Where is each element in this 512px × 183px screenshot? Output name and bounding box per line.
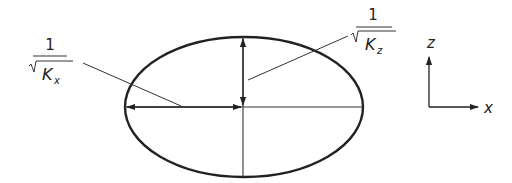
kz-leader-line [248,36,348,80]
ellipse-diagram: 1 K x 1 K z z x [0,0,512,183]
kz-symbol: K [365,35,377,54]
coordinate-axes: z x [426,34,493,117]
kz-subscript: z [376,45,383,56]
kx-leader-line [83,63,181,106]
kz-label: 1 K z [351,6,396,56]
kx-symbol: K [42,65,54,84]
kx-label: 1 K x [29,36,73,86]
x-axis-label: x [483,99,493,117]
kx-subscript: x [53,75,60,86]
z-axis-label: z [426,34,436,52]
kx-numerator: 1 [45,36,55,54]
kz-numerator: 1 [368,6,378,24]
